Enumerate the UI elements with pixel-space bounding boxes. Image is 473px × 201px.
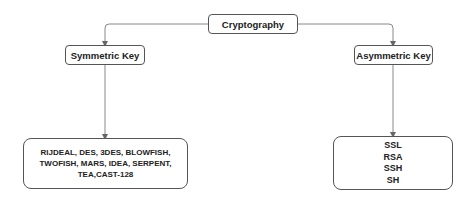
node-symmetric-algorithms: RIJDEAL, DES, 3DES, BLOWFISH, TWOFISH, M…: [23, 138, 188, 189]
leaf-line: SSH: [383, 163, 402, 175]
leaf-line: RIJDEAL, DES, 3DES, BLOWFISH,: [39, 147, 171, 158]
node-symmetric-key: Symmetric Key: [65, 45, 145, 65]
node-cryptography: Cryptography: [208, 14, 298, 34]
leaf-line: SH: [383, 175, 402, 187]
connector-root-to-symmetric: [105, 24, 208, 44]
node-symmetric-key-label: Symmetric Key: [71, 50, 140, 61]
node-asymmetric-key: Asymmetric Key: [354, 45, 433, 65]
node-asymmetric-algorithms: SSL RSA SSH SH: [333, 136, 453, 190]
connector-root-to-asymmetric: [298, 24, 393, 44]
leaf-line: SSL: [383, 140, 402, 152]
leaf-line: TWOFISH, MARS, IDEA, SERPENT,: [39, 158, 171, 169]
node-cryptography-label: Cryptography: [222, 19, 284, 30]
node-asymmetric-key-label: Asymmetric Key: [356, 50, 430, 61]
leaf-line: RSA: [383, 152, 402, 164]
leaf-line: TEA,CAST-128: [39, 169, 171, 180]
